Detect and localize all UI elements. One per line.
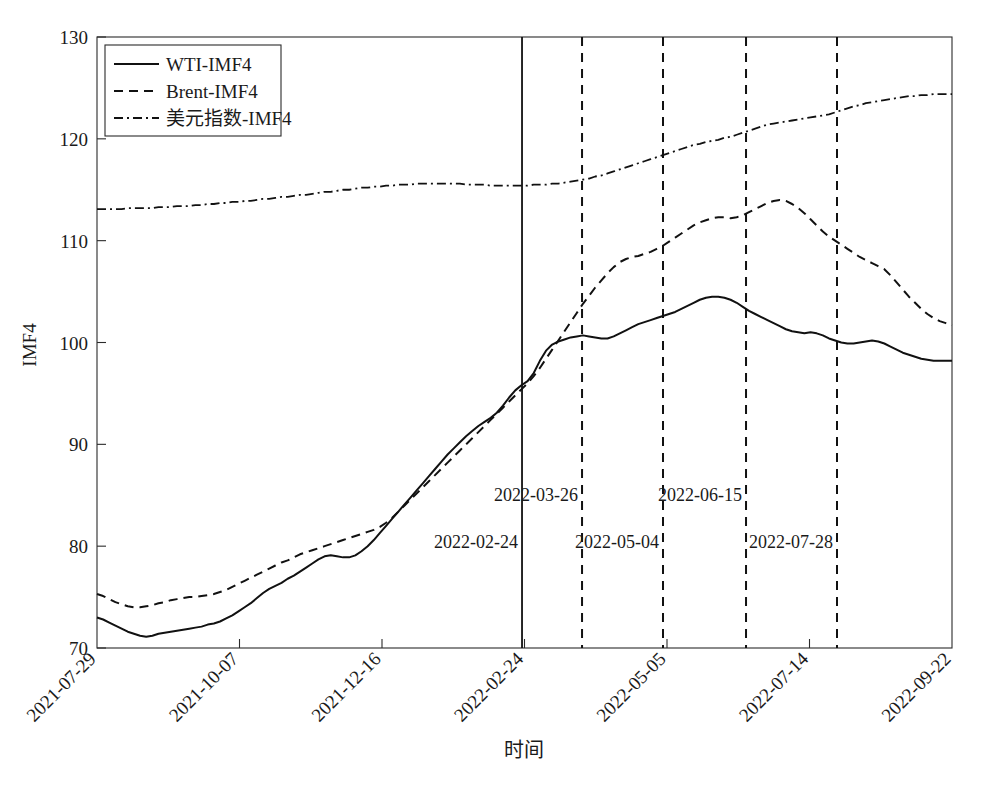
y-tick-label: 130 (60, 27, 89, 48)
y-tick-label: 110 (60, 231, 88, 252)
y-tick-label: 90 (69, 434, 88, 455)
imf4-line-chart: 708090100110120130 2021-07-292021-10-072… (0, 0, 988, 802)
event-line-label: 2022-07-28 (749, 532, 833, 552)
event-line-label: 2022-03-26 (494, 485, 578, 505)
y-tick-label: 80 (69, 536, 88, 557)
y-tick-label: 100 (60, 333, 89, 354)
y-axis-title: IMF4 (19, 323, 40, 367)
legend-item-label: Brent-IMF4 (166, 81, 258, 102)
event-line-label: 2022-05-04 (575, 532, 659, 552)
chart-figure: 708090100110120130 2021-07-292021-10-072… (0, 0, 988, 802)
chart-legend: WTI-IMF4Brent-IMF4美元指数-IMF4 (105, 45, 292, 136)
event-line-label: 2022-02-24 (434, 532, 518, 552)
y-tick-label: 120 (60, 129, 89, 150)
legend-item-label: 美元指数-IMF4 (166, 108, 292, 129)
event-line-label: 2022-06-15 (658, 485, 742, 505)
x-axis-title: 时间 (504, 739, 544, 761)
legend-item-label: WTI-IMF4 (166, 54, 252, 75)
